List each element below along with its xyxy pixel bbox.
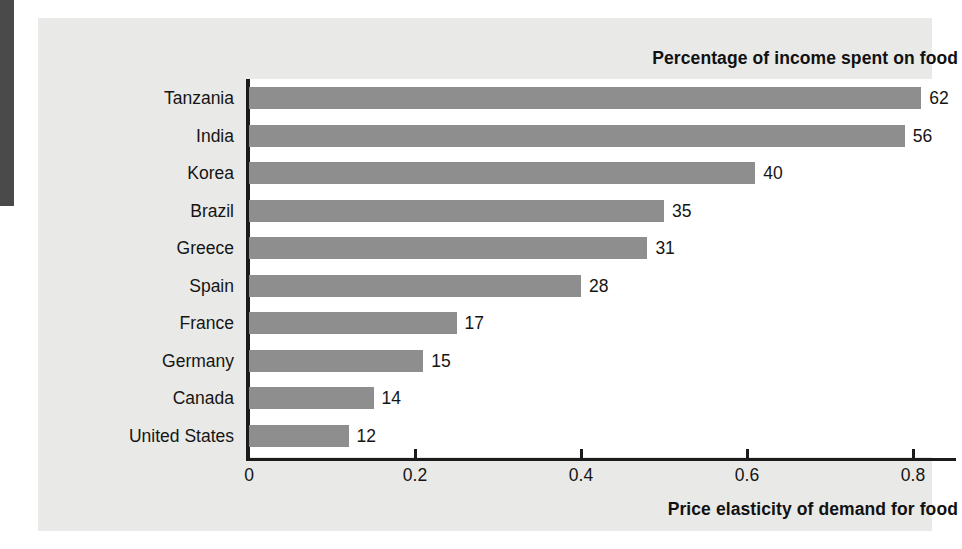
category-label: Canada — [38, 384, 234, 412]
bar — [249, 350, 423, 372]
bar — [249, 200, 664, 222]
chart-card: Percentage of income spent on food Tanza… — [38, 18, 932, 531]
x-axis-line — [246, 458, 956, 461]
bar — [249, 125, 905, 147]
category-label: United States — [38, 422, 234, 450]
bar-value-label: 62 — [929, 84, 948, 112]
bar-row: United States12 — [38, 422, 932, 450]
bar-value-label: 31 — [655, 234, 674, 262]
page-gutter-band — [0, 0, 14, 206]
bar — [249, 387, 374, 409]
category-label: Brazil — [38, 197, 234, 225]
bar-value-label: 17 — [465, 309, 484, 337]
category-label: Tanzania — [38, 84, 234, 112]
bar-value-label: 14 — [382, 384, 401, 412]
category-label: France — [38, 309, 234, 337]
bar-value-label: 35 — [672, 197, 691, 225]
bar-value-label: 40 — [763, 159, 782, 187]
bar — [249, 312, 457, 334]
bar-row: Korea40 — [38, 159, 932, 187]
bar-row: Brazil35 — [38, 197, 932, 225]
bar-row: Spain28 — [38, 272, 932, 300]
bar-row: Tanzania62 — [38, 84, 932, 112]
x-tick-label: 0 — [214, 465, 284, 486]
category-label: Greece — [38, 234, 234, 262]
category-label: Spain — [38, 272, 234, 300]
bar-row: Greece31 — [38, 234, 932, 262]
x-tick-label: 0.2 — [380, 465, 450, 486]
bar — [249, 275, 581, 297]
bar — [249, 162, 755, 184]
category-label: India — [38, 122, 234, 150]
bar — [249, 87, 921, 109]
bar-row: France17 — [38, 309, 932, 337]
category-label: Korea — [38, 159, 234, 187]
x-tick-label: 0.8 — [878, 465, 948, 486]
x-tick-label: 0.4 — [546, 465, 616, 486]
chart-header-title: Percentage of income spent on food — [493, 48, 958, 69]
bar — [249, 237, 647, 259]
bar-value-label: 28 — [589, 272, 608, 300]
category-label: Germany — [38, 347, 234, 375]
bar-row: Germany15 — [38, 347, 932, 375]
bar-value-label: 15 — [431, 347, 450, 375]
bar — [249, 425, 349, 447]
x-axis-title: Price elasticity of demand for food — [493, 499, 958, 520]
bar-row: Canada14 — [38, 384, 932, 412]
x-tick-label: 0.6 — [712, 465, 782, 486]
bar-value-label: 56 — [913, 122, 932, 150]
bar-value-label: 12 — [357, 422, 376, 450]
bar-row: India56 — [38, 122, 932, 150]
